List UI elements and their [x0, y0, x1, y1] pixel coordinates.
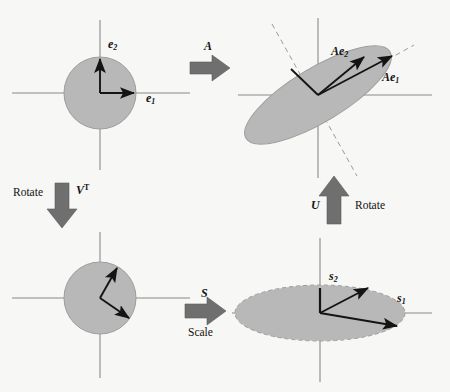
- operator-caption-S: Scale: [188, 327, 213, 339]
- svd-diagram-canvas: [0, 0, 450, 392]
- panel-scaled-ellipse: [232, 238, 432, 382]
- operator-arrow-A: [190, 55, 230, 81]
- label-e1: e1: [146, 92, 155, 106]
- operator-label-A: A: [204, 40, 212, 52]
- label-Ae2: Ae2: [331, 45, 348, 59]
- operator-caption-VT: Rotate: [13, 187, 43, 199]
- operator-arrow-U: [319, 176, 349, 224]
- operator-label-S: S: [201, 287, 208, 299]
- operator-label-U: U: [311, 199, 320, 211]
- panel-transformed-ellipse: [232, 18, 432, 178]
- operator-caption-U: Rotate: [355, 200, 385, 212]
- label-s2: s2: [329, 270, 338, 284]
- operator-arrow-S: [185, 297, 226, 325]
- panel-rotated-disk: [12, 232, 190, 378]
- panel-unit-disk: [12, 20, 190, 170]
- label-Ae1: Ae1: [382, 71, 399, 85]
- svd-figure: e2 e1 Ae2 Ae1 s2 s1 A Rotate VT U Rotate…: [0, 0, 450, 392]
- label-e2: e2: [108, 38, 117, 52]
- operator-label-VT: VT: [76, 184, 89, 196]
- operator-arrow-VT: [47, 183, 77, 228]
- label-s1: s1: [397, 292, 406, 306]
